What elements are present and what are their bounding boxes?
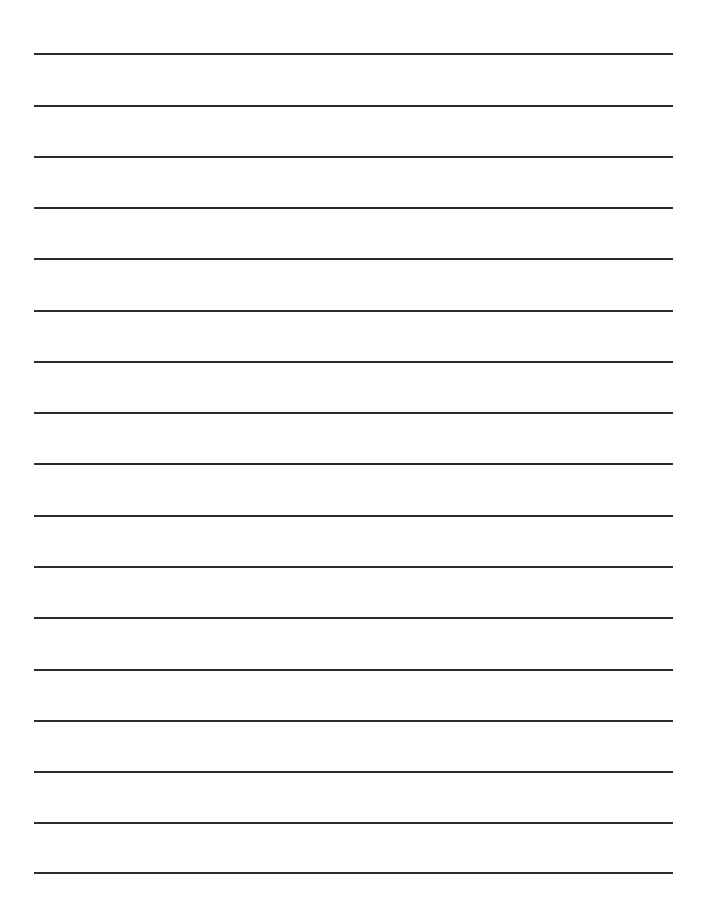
ruled-line xyxy=(34,822,673,824)
ruled-line xyxy=(34,515,673,517)
ruled-line xyxy=(34,463,673,465)
ruled-line xyxy=(34,412,673,414)
ruled-line xyxy=(34,156,673,158)
ruled-line xyxy=(34,207,673,209)
ruled-line xyxy=(34,258,673,260)
ruled-line xyxy=(34,771,673,773)
ruled-line xyxy=(34,669,673,671)
ruled-line xyxy=(34,310,673,312)
lined-paper-page xyxy=(0,0,705,920)
ruled-line xyxy=(34,617,673,619)
ruled-line xyxy=(34,361,673,363)
ruled-line xyxy=(34,53,673,55)
ruled-line xyxy=(34,566,673,568)
ruled-line xyxy=(34,872,673,874)
ruled-line xyxy=(34,105,673,107)
ruled-line xyxy=(34,720,673,722)
